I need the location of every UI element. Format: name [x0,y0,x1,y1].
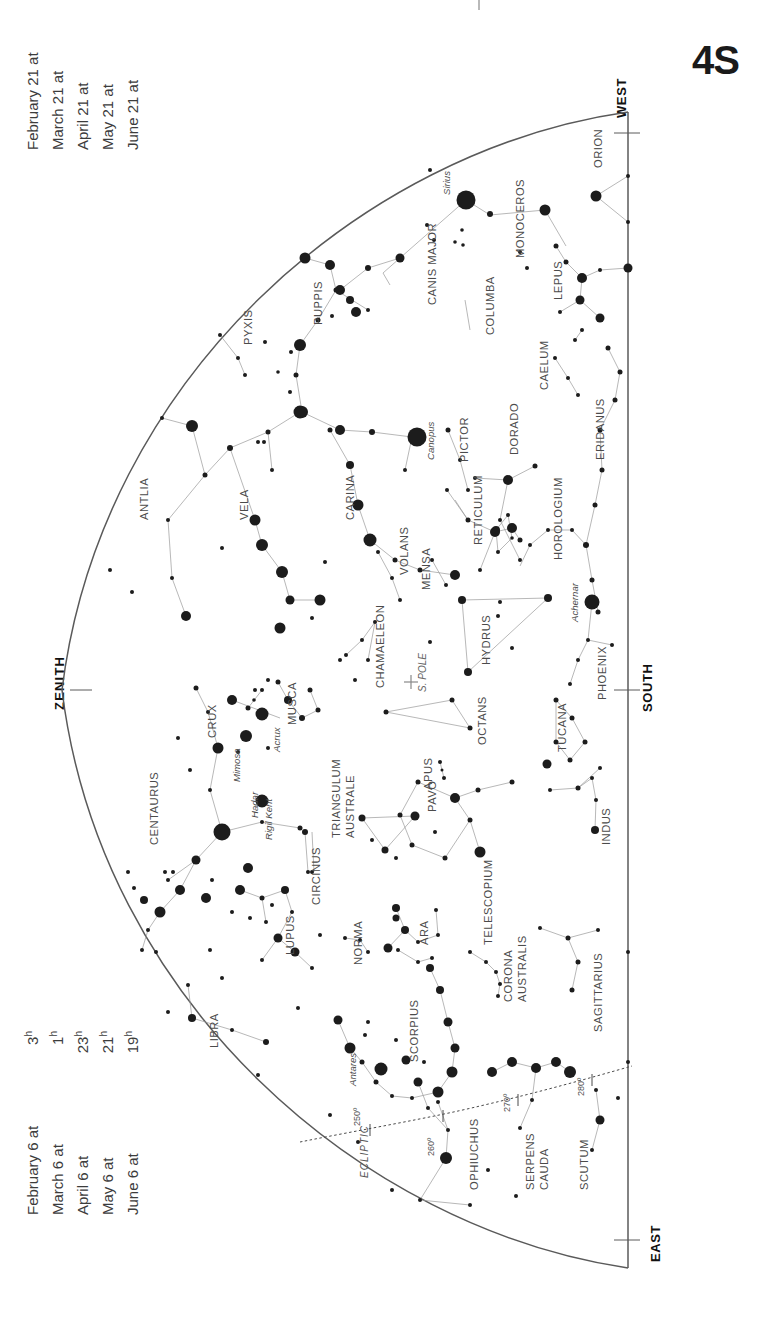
label-corona-australis-1: CORONA [502,950,514,1002]
star-canopus [408,428,427,447]
horizon-arc [62,112,628,1268]
label-columba: COLUMBA [484,276,496,335]
star-label-canopus: Canopus [425,421,436,460]
star-field [108,168,633,1207]
label-pyxis: PYXIS [242,310,254,345]
label-triangulum-australe-2: AUSTRALE [344,775,356,838]
star-sirius [457,191,476,210]
label-serpens-cauda-2: CAUDA [538,1148,550,1190]
label-volans: VOLANS [398,527,410,575]
label-reticulum: RETICULUM [472,475,484,545]
label-puppis: PUPPIS [312,281,324,325]
label-vela: VELA [238,489,250,520]
ecliptic-degree-280: 280º [576,1077,586,1096]
label-phoenix: PHOENIX [596,646,608,700]
label-horologium: HOROLOGIUM [552,477,564,560]
label-pavo: PAVO [426,781,438,812]
ecliptic-ticks [370,1074,592,1136]
label-scorpius: SCORPIUS [408,1000,420,1062]
label-triangulum-australe-1: TRIANGULUM [330,759,342,838]
label-hydrus: HYDRUS [480,615,492,665]
label-corona-australis-2: AUSTRALIS [516,935,528,1002]
star-mimosa [240,730,252,742]
label-dorado: DORADO [508,403,520,455]
label-indus: INDUS [600,808,612,845]
label-caelum: CAELUM [538,340,550,390]
label-crux: CRUX [206,704,218,738]
star-acrux [256,708,269,721]
ecliptic-degree-270: 270º [502,1093,512,1112]
label-serpens-cauda-1: SERPENS [524,1133,536,1190]
label-centaurus: CENTAURUS [148,772,160,845]
label-mensa: MENSA [420,548,432,590]
star-label-sirius: Sirius [441,171,452,195]
constellation-lines [142,176,628,1205]
label-chamaeleon: CHAMAELEON [374,605,386,688]
label-ara: ARA [418,920,430,945]
label-lupus: LUPUS [284,915,296,955]
label-tucana: TUCANA [556,703,568,752]
star-label-antares: Antares [347,1053,358,1087]
star-label-hadar: Hadar [249,791,260,818]
label-musca: MUSCA [286,682,298,725]
star-label-mimosa: Mimosa [231,748,242,782]
label-libra: LIBRA [208,1013,220,1048]
star-achernar [585,595,600,610]
star-chart: ECLIPTIC 250º 260º 270º 280º S. POLE [0,0,757,1326]
label-norma: NORMA [352,921,364,965]
label-carina: CARINA [344,475,356,520]
label-octans: OCTANS [476,696,488,745]
label-circinus: CIRCINUS [310,847,322,905]
label-sagittarius: SAGITTARIUS [592,953,604,1032]
label-lepus: LEPUS [552,261,564,300]
label-antlia: ANTLIA [138,478,150,520]
label-ophiuchus: OPHIUCHUS [468,1118,480,1190]
label-canis-major: CANIS MAJOR [426,223,438,305]
star-label-rigil-kent: Rigil Kent [263,799,274,840]
label-eridanus: ERIDANUS [594,398,606,460]
star-antares [375,1063,388,1076]
constellation-labels: ORION MONOCEROS CANIS MAJOR COLUMBA LEPU… [138,129,612,1190]
south-pole-marker [404,675,418,689]
south-pole-label: S. POLE [417,653,428,692]
star-label-achernar: Achernar [569,582,580,623]
label-telescopium: TELESCOPIUM [482,859,494,945]
ecliptic-label: ECLIPTIC [359,1125,370,1178]
label-pictor: PICTOR [458,417,470,462]
label-scutum: SCUTUM [578,1139,590,1190]
label-monoceros: MONOCEROS [514,179,526,258]
label-orion: ORION [592,129,604,168]
ecliptic-degree-260: 260º [426,1137,436,1156]
star-rigil-kent [214,824,231,841]
star-label-acrux: Acrux [271,726,282,753]
ecliptic-degree-250: 250º [352,1107,362,1126]
